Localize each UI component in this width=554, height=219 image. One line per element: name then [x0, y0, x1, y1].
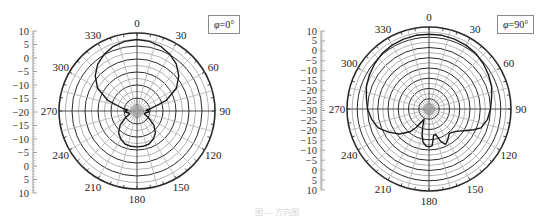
- polar-grid: [347, 27, 511, 191]
- radial-tick-label: 10: [19, 188, 30, 199]
- radial-tick-label: 10: [307, 185, 318, 196]
- angle-label-0: 0: [426, 11, 432, 23]
- angle-label-300: 300: [341, 57, 358, 69]
- angle-label-270: 270: [41, 105, 58, 117]
- angle-label-60: 60: [503, 57, 515, 69]
- radial-tick-label: −15: [13, 93, 29, 104]
- angle-label-300: 300: [53, 61, 70, 73]
- radial-axis-scale: 1050−5−10−15−20−15−10−50510: [13, 26, 37, 199]
- radial-tick-label: 0: [24, 53, 29, 64]
- legend-phi-0: φ=0°: [208, 15, 240, 34]
- angle-label-120: 120: [500, 149, 517, 161]
- angle-label-330: 330: [85, 29, 102, 41]
- angle-label-210: 210: [85, 181, 102, 193]
- radial-tick-label: −20: [13, 107, 29, 118]
- angle-label-150: 150: [467, 183, 484, 195]
- angle-label-90: 90: [220, 105, 232, 117]
- angle-label-30: 30: [470, 23, 482, 35]
- angle-label-120: 120: [205, 149, 222, 161]
- angle-label-150: 150: [173, 181, 190, 193]
- polar-chart-phi-90: 03060901201501802102402703003301050−5−10…: [277, 0, 554, 219]
- figure-caption: 图 — 方向图: [0, 206, 554, 217]
- legend-value: =90°: [509, 19, 529, 30]
- radial-tick-label: −10: [13, 134, 29, 145]
- angle-label-180: 180: [129, 193, 146, 205]
- legend-phi-90: φ=90°: [497, 15, 534, 34]
- angle-label-30: 30: [176, 29, 188, 41]
- radial-tick-label: 10: [19, 26, 30, 37]
- angle-label-330: 330: [375, 23, 392, 35]
- angle-label-270: 270: [329, 103, 346, 115]
- polar-grid: [59, 33, 215, 189]
- angle-label-240: 240: [53, 149, 70, 161]
- angle-label-60: 60: [208, 61, 220, 73]
- legend-value: =0°: [220, 19, 235, 30]
- radial-tick-label: −10: [13, 80, 29, 91]
- radial-tick-label: −15: [13, 120, 29, 131]
- radial-axis-scale: 1050−5−10−15−20−25−30−25−20−15−10−50510: [301, 26, 325, 196]
- radial-tick-label: 5: [24, 174, 29, 185]
- angle-label-90: 90: [516, 103, 528, 115]
- radial-tick-label: 5: [24, 39, 29, 50]
- radial-tick-label: −5: [18, 147, 29, 158]
- radial-tick-label: −5: [18, 66, 29, 77]
- angle-label-210: 210: [375, 183, 392, 195]
- angle-label-0: 0: [134, 17, 140, 29]
- radial-tick-label: 0: [24, 161, 29, 172]
- angle-label-240: 240: [341, 149, 358, 161]
- polar-chart-phi-0: 03060901201501802102402703003301050−5−10…: [0, 0, 277, 219]
